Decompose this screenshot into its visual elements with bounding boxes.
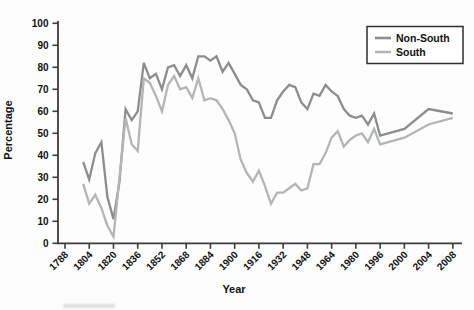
y-tick-label: 80	[37, 62, 49, 73]
y-tick-label: 0	[43, 238, 49, 249]
x-tick-label: 1820	[95, 249, 119, 273]
x-tick-label: 1996	[362, 249, 386, 273]
x-tick-label: 2000	[386, 249, 410, 273]
y-tick-label: 100	[32, 18, 49, 29]
x-tick-label: 1884	[192, 249, 216, 273]
x-tick-label: 1916	[241, 249, 265, 273]
x-tick-label: 1900	[217, 249, 241, 273]
x-tick-label: 2004	[411, 249, 435, 273]
y-tick-label: 90	[37, 40, 49, 51]
y-tick-label: 30	[37, 172, 49, 183]
y-tick-label: 70	[37, 84, 49, 95]
x-tick-label: 1932	[265, 249, 289, 273]
x-tick-label: 2008	[435, 249, 459, 273]
x-tick-label: 1964	[314, 249, 338, 273]
y-axis-title: Percentage	[2, 94, 14, 166]
x-tick-label: 1948	[289, 249, 313, 273]
x-tick-label: 1788	[47, 249, 71, 273]
y-tick-label: 60	[37, 106, 49, 117]
legend-label-non-south: Non-South	[396, 32, 450, 44]
x-tick-label: 1980	[338, 249, 362, 273]
legend-label-south: South	[396, 46, 426, 58]
figure-page: 0102030405060708090100178818041820183618…	[0, 0, 474, 310]
x-tick-label: 1852	[144, 249, 168, 273]
y-tick-label: 40	[37, 150, 49, 161]
x-tick-label: 1836	[120, 249, 144, 273]
x-tick-label: 1804	[71, 249, 95, 273]
cropped-text-artifact	[63, 304, 115, 308]
y-tick-label: 10	[37, 216, 49, 227]
x-axis-title: Year	[204, 283, 264, 295]
turnout-line-chart: 0102030405060708090100178818041820183618…	[0, 0, 474, 310]
x-tick-label: 1868	[168, 249, 192, 273]
y-tick-label: 20	[37, 194, 49, 205]
y-tick-label: 50	[37, 128, 49, 139]
